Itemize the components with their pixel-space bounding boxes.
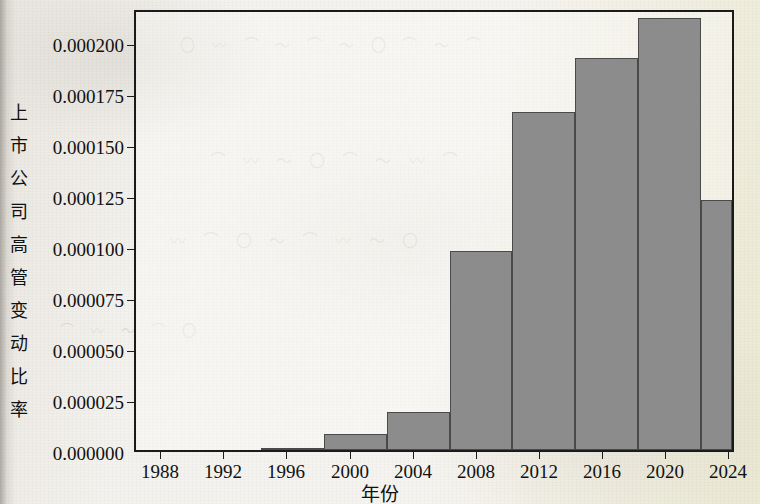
y-axis-title-char: 动 bbox=[6, 327, 32, 360]
bar bbox=[575, 58, 638, 450]
x-tick-mark bbox=[602, 452, 603, 459]
y-tick-mark bbox=[127, 402, 134, 403]
bar bbox=[324, 434, 387, 450]
x-tick-mark bbox=[286, 452, 287, 459]
y-tick-label: 0.000125 bbox=[53, 188, 124, 210]
y-axis-title-char: 上 bbox=[6, 96, 32, 129]
y-axis-title-char: 公 bbox=[6, 162, 32, 195]
x-tick-mark bbox=[350, 452, 351, 459]
y-tick-mark bbox=[127, 45, 134, 46]
x-tick-mark bbox=[728, 452, 729, 459]
plot-area bbox=[134, 10, 734, 452]
y-tick-label: 0.000175 bbox=[53, 86, 124, 108]
y-tick-label: 0.000000 bbox=[53, 443, 124, 465]
bar bbox=[638, 18, 701, 450]
y-tick-label: 0.000150 bbox=[53, 137, 124, 159]
x-tick-mark bbox=[476, 452, 477, 459]
x-tick-mark bbox=[665, 452, 666, 459]
y-axis-title-char: 变 bbox=[6, 294, 32, 327]
y-axis-title-char: 高 bbox=[6, 228, 32, 261]
x-tick-mark bbox=[539, 452, 540, 459]
y-tick-label: 0.000100 bbox=[53, 239, 124, 261]
y-axis-title: 上 市 公 司 高 管 变 动 比 率 bbox=[6, 96, 32, 426]
x-tick-mark bbox=[160, 452, 161, 459]
y-axis-title-char: 比 bbox=[6, 360, 32, 393]
y-tick-label: 0.000050 bbox=[53, 341, 124, 363]
x-tick-mark bbox=[223, 452, 224, 459]
histogram-chart: 0.000200 0.000175 0.000150 0.000125 0.00… bbox=[0, 0, 760, 504]
x-axis-title: 年份 bbox=[0, 479, 760, 504]
y-axis-title-char: 市 bbox=[6, 129, 32, 162]
y-tick-label: 0.000075 bbox=[53, 290, 124, 312]
y-tick-mark bbox=[127, 147, 134, 148]
y-tick-label: 0.000025 bbox=[53, 392, 124, 414]
bar-series bbox=[136, 12, 732, 450]
bar bbox=[512, 112, 575, 450]
bar bbox=[450, 251, 513, 450]
y-axis-title-char: 司 bbox=[6, 195, 32, 228]
y-tick-mark bbox=[127, 351, 134, 352]
x-tick-mark bbox=[413, 452, 414, 459]
bar bbox=[261, 448, 324, 450]
y-axis-title-char: 管 bbox=[6, 261, 32, 294]
y-tick-mark bbox=[127, 300, 134, 301]
y-tick-label: 0.000200 bbox=[53, 35, 124, 57]
bar bbox=[387, 412, 450, 450]
y-tick-mark bbox=[127, 198, 134, 199]
bar bbox=[701, 200, 732, 450]
y-tick-mark bbox=[127, 96, 134, 97]
y-axis-title-char: 率 bbox=[6, 393, 32, 426]
y-tick-mark bbox=[127, 249, 134, 250]
